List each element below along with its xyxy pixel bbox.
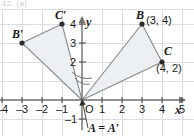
y-tick-label-2: 2 [70, 57, 76, 68]
point-dot-b-prime [19, 40, 24, 45]
y-tick-label--1: –1 [65, 114, 77, 125]
y-axis-arrow [79, 16, 86, 23]
coordinate-plane-figure: 12. (a) [0, 0, 194, 136]
y-tick-label-3: 3 [70, 38, 76, 49]
point-dot-b [139, 21, 144, 26]
point-label-c-prime: C′ [55, 9, 66, 21]
x-tick-label-2: 2 [119, 104, 125, 115]
x-tick-label--3: –3 [16, 104, 28, 115]
x-axis-label: x [175, 104, 181, 116]
coord-label-c: (4, 2) [156, 63, 182, 74]
y-axis-label: y [86, 16, 91, 28]
point-label-c: C [164, 45, 172, 57]
y-tick-label-4: 4 [70, 19, 76, 30]
x-tick-label-3: 3 [139, 104, 145, 115]
point-label-a-equals-a-prime: A = A′ [88, 122, 119, 134]
point-dot-c-prime [59, 21, 64, 26]
origin-label: O [85, 104, 94, 115]
point-label-b: B [136, 9, 144, 21]
x-tick-label--2: –2 [36, 104, 48, 115]
x-tick-label-4: 4 [159, 104, 165, 115]
x-tick-label-1: 1 [99, 104, 105, 115]
point-label-b-prime: B′ [12, 28, 23, 40]
x-tick-label--4: –4 [0, 104, 8, 115]
coord-label-b: (3, 4) [146, 15, 172, 26]
